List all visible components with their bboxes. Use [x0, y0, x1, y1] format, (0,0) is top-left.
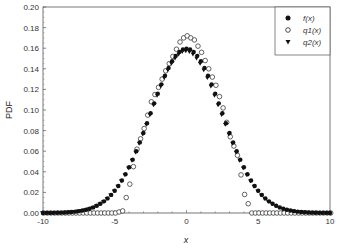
legend-label: q1(x) [303, 26, 322, 35]
y-tick-label: 0.12 [23, 85, 39, 94]
legend-label: f(x) [303, 14, 315, 23]
x-tick-label: 10 [326, 217, 335, 226]
y-tick-label: 0.06 [23, 147, 39, 156]
x-tick-label: 0 [184, 217, 189, 226]
filled-circle-icon [286, 16, 291, 21]
y-tick-label: 0.02 [23, 188, 39, 197]
y-tick-label: 0.20 [23, 3, 39, 12]
x-axis-label: x [183, 235, 189, 245]
x-tick-label: 5 [256, 217, 261, 226]
open-circle-icon [286, 28, 291, 33]
data-points [40, 34, 333, 216]
y-axis-label: PDF [4, 100, 14, 119]
legend-label: q2(x) [303, 38, 322, 47]
x-tick-label: -10 [37, 217, 49, 226]
y-tick-label: 0.08 [23, 127, 39, 136]
pdf-chart: 0.000.020.040.060.080.100.120.140.160.18… [0, 0, 338, 252]
y-tick-label: 0.16 [23, 44, 39, 53]
y-tick-label: 0.04 [23, 168, 39, 177]
x-tick-label: -5 [111, 217, 119, 226]
y-tick-label: 0.14 [23, 65, 39, 74]
y-tick-label: 0.18 [23, 24, 39, 33]
legend: f(x)q1(x)q2(x) [275, 7, 330, 55]
y-tick-label: 0.10 [23, 106, 39, 115]
